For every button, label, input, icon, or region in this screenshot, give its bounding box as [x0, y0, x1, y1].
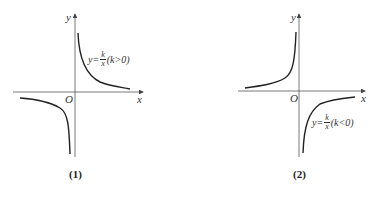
panel-1-equation: y= k x (k>0) [88, 51, 130, 68]
fraction-denominator: x [325, 123, 329, 131]
equation-lhs: y= [312, 117, 323, 128]
panel-1-caption: (1) [69, 168, 82, 180]
panel-2-x-axis-label: x [361, 93, 366, 104]
panel-1-x-axis-label: x [137, 94, 142, 105]
panel-1-branch-q3 [20, 98, 70, 154]
panel-2-branch-q2 [245, 32, 296, 88]
equation-condition: (k<0) [331, 117, 354, 128]
panel-1-y-axis-label: y [66, 12, 71, 23]
equation-condition: (k>0) [107, 54, 130, 65]
hyperbola-graphs [0, 0, 380, 197]
panel-2-axes [238, 14, 365, 157]
equation-lhs: y= [88, 54, 99, 65]
panel-2-equation: y= k x (k<0) [312, 114, 354, 131]
panel-2-y-axis-label: y [291, 12, 296, 23]
panel-2-origin-label: O [290, 93, 298, 104]
fraction-denominator: x [101, 60, 105, 68]
panel-1-origin-label: O [65, 94, 73, 105]
fraction: k x [324, 114, 330, 131]
fraction: k x [100, 51, 106, 68]
panel-2-caption: (2) [293, 168, 306, 180]
